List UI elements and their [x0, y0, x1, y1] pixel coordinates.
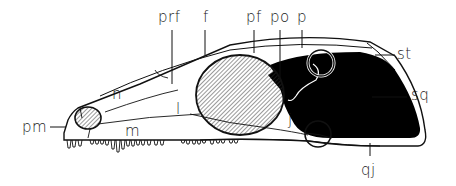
label-p: p — [297, 10, 307, 25]
label-qj: qj — [361, 163, 376, 178]
label-l: l — [176, 102, 181, 117]
teeth-row — [67, 140, 238, 152]
skull-drawing — [0, 0, 456, 186]
label-n: n — [112, 87, 122, 102]
label-prf: prf — [158, 10, 180, 25]
label-f: f — [203, 10, 209, 25]
label-pf: pf — [246, 10, 262, 25]
label-sq: sq — [411, 88, 429, 103]
label-st: st — [397, 47, 412, 62]
naris — [75, 107, 101, 129]
skull-diagram: prf f pf po p st sq qj pm n l m j — [0, 0, 456, 186]
label-pm: pm — [22, 120, 47, 135]
label-j: j — [288, 113, 293, 128]
orbit — [196, 55, 284, 135]
label-po: po — [270, 10, 290, 25]
label-m: m — [125, 124, 140, 139]
